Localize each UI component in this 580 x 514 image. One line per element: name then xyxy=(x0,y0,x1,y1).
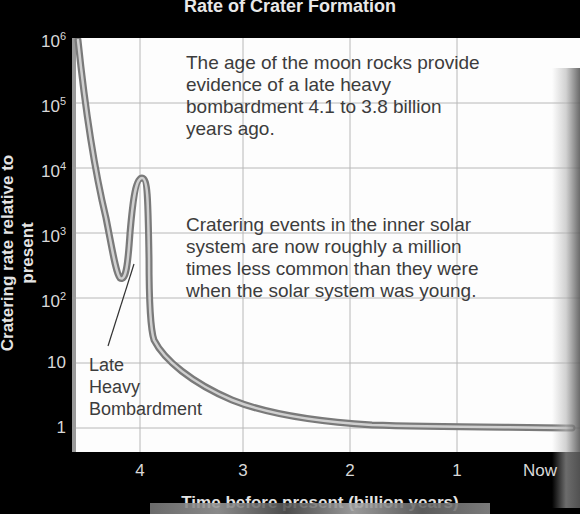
y-tick-1: 1 xyxy=(6,419,66,437)
x-tick-now: Now xyxy=(520,462,560,480)
plot-area: The age of the moon rocks provide eviden… xyxy=(72,38,580,452)
x-tick-4: 4 xyxy=(120,462,160,480)
lhb-label: Late Heavy Bombardment xyxy=(89,354,202,420)
annotation-line: years ago. xyxy=(186,118,480,140)
page-curl-shadow xyxy=(552,68,580,508)
annotation-line: Cratering events in the inner solar xyxy=(186,214,479,236)
cratering-events-annotation: Cratering events in the inner solar syst… xyxy=(186,214,479,302)
annotation-line: evidence of a late heavy xyxy=(186,74,480,96)
moon-rocks-annotation: The age of the moon rocks provide eviden… xyxy=(186,52,480,140)
annotation-line: bombardment 4.1 to 3.8 billion xyxy=(186,96,480,118)
y-axis-label: Cratering rate relative to present xyxy=(0,143,38,363)
annotation-line: times less common than they were xyxy=(186,258,479,280)
x-tick-1: 1 xyxy=(437,462,477,480)
x-tick-2: 2 xyxy=(330,462,370,480)
annotation-line: system are now roughly a million xyxy=(186,236,479,258)
left-edge xyxy=(72,38,76,452)
x-tick-3: 3 xyxy=(223,462,263,480)
lhb-label-line: Bombardment xyxy=(89,398,202,420)
lhb-label-line: Heavy xyxy=(89,376,202,398)
chart-title: Rate of Crater Formation xyxy=(0,0,580,16)
annotation-line: when the solar system was young. xyxy=(186,280,479,302)
blurred-bottom-edge xyxy=(150,503,490,514)
lhb-label-line: Late xyxy=(89,354,202,376)
annotation-line: The age of the moon rocks provide xyxy=(186,52,480,74)
y-tick-1e6: 106 xyxy=(6,27,66,51)
y-tick-1e5: 105 xyxy=(6,92,66,116)
